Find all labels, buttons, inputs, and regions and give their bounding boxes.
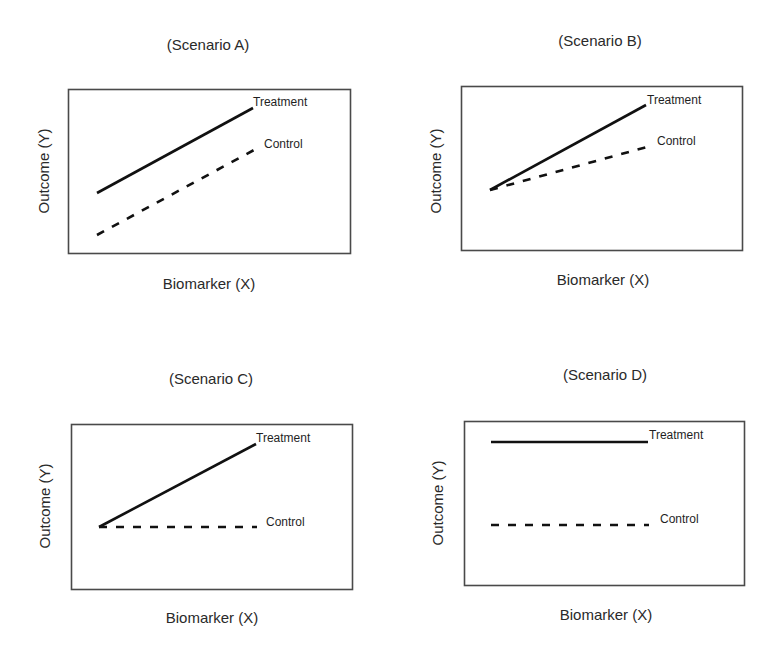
y-axis-label: Outcome (Y): [429, 460, 446, 545]
scenario-figure: (Scenario A) Outcome (Y) Biomarker (X) T…: [0, 0, 772, 655]
control-label: Control: [266, 515, 305, 529]
control-label: Control: [660, 512, 699, 526]
panel-scenario-c: (Scenario C) Outcome (Y) Biomarker (X) T…: [36, 370, 353, 626]
x-axis-label: Biomarker (X): [560, 606, 653, 623]
treatment-line: [490, 105, 646, 190]
panel-scenario-b: (Scenario B) Outcome (Y) Biomarker (X) T…: [427, 32, 743, 288]
treatment-line: [97, 108, 253, 193]
plot-frame: [462, 87, 743, 251]
panel-title: (Scenario D): [563, 366, 647, 383]
treatment-label: Treatment: [647, 93, 702, 107]
x-axis-label: Biomarker (X): [557, 271, 650, 288]
y-axis-label: Outcome (Y): [427, 128, 444, 213]
panel-title: (Scenario A): [167, 36, 250, 53]
plot-frame: [465, 422, 745, 586]
treatment-label: Treatment: [256, 431, 311, 445]
panel-title: (Scenario C): [169, 370, 253, 387]
control-label: Control: [657, 134, 696, 148]
panel-scenario-d: (Scenario D) Outcome (Y) Biomarker (X) T…: [429, 366, 745, 623]
x-axis-label: Biomarker (X): [163, 275, 256, 292]
treatment-label: Treatment: [253, 95, 308, 109]
control-label: Control: [264, 137, 303, 151]
treatment-line: [99, 444, 256, 527]
y-axis-label: Outcome (Y): [35, 128, 52, 213]
x-axis-label: Biomarker (X): [166, 609, 259, 626]
control-line: [490, 147, 647, 190]
panel-scenario-a: (Scenario A) Outcome (Y) Biomarker (X) T…: [35, 36, 351, 292]
panel-title: (Scenario B): [558, 32, 641, 49]
treatment-label: Treatment: [649, 428, 704, 442]
control-line: [97, 150, 254, 235]
plot-frame: [69, 90, 351, 254]
plot-frame: [72, 425, 353, 590]
y-axis-label: Outcome (Y): [36, 463, 53, 548]
